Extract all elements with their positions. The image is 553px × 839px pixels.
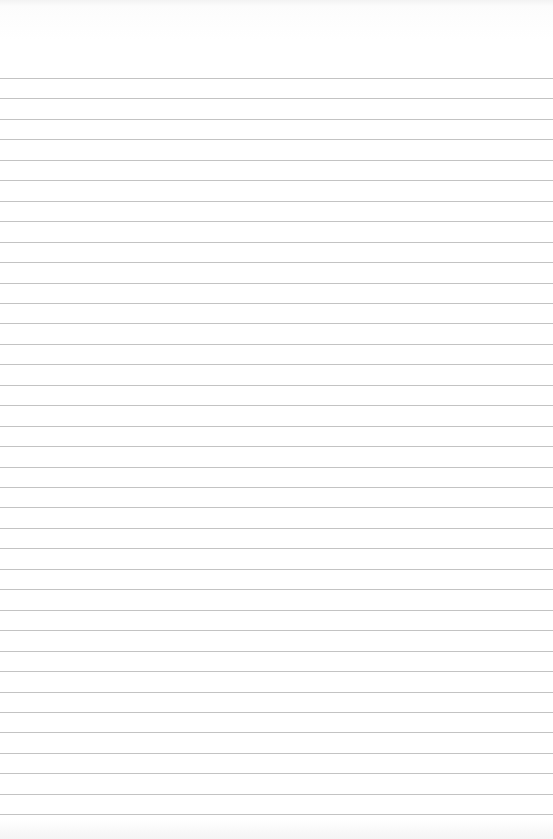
ruled-line [0, 589, 553, 590]
ruled-line [0, 242, 553, 243]
ruled-line [0, 814, 553, 815]
ruled-line [0, 160, 553, 161]
ruled-line [0, 344, 553, 345]
ruled-line [0, 323, 553, 324]
ruled-line [0, 467, 553, 468]
ruled-line [0, 283, 553, 284]
ruled-line [0, 119, 553, 120]
ruled-line [0, 78, 553, 79]
ruled-line [0, 139, 553, 140]
ruled-line [0, 732, 553, 733]
ruled-line [0, 487, 553, 488]
ruled-line [0, 794, 553, 795]
ruled-line [0, 569, 553, 570]
ruled-line [0, 221, 553, 222]
ruled-line [0, 528, 553, 529]
ruled-line [0, 630, 553, 631]
ruled-line [0, 303, 553, 304]
ruled-line [0, 385, 553, 386]
ruled-line [0, 98, 553, 99]
ruled-line [0, 671, 553, 672]
ruled-line [0, 446, 553, 447]
ruled-line [0, 753, 553, 754]
ruled-line [0, 201, 553, 202]
ruled-line [0, 692, 553, 693]
ruled-line [0, 773, 553, 774]
ruled-line [0, 712, 553, 713]
ruled-line [0, 364, 553, 365]
ruled-line [0, 262, 553, 263]
ruled-line [0, 180, 553, 181]
ruled-line [0, 426, 553, 427]
ruled-line [0, 405, 553, 406]
ruled-line [0, 610, 553, 611]
ruled-line [0, 548, 553, 549]
ruled-line [0, 507, 553, 508]
ruled-line [0, 651, 553, 652]
lined-paper-sheet [0, 0, 553, 839]
